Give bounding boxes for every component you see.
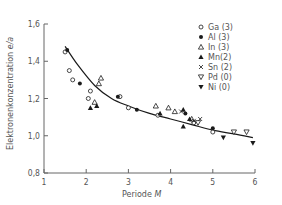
filled-triangle-up-legend-icon [198,54,203,59]
open-circle-marker [88,89,92,93]
open-triangle-up-marker [172,109,177,114]
filled-circle-marker [135,108,139,112]
open-circle-marker [86,97,90,101]
legend-label: Ni (0) [208,83,230,92]
filled-circle-marker [211,126,215,130]
open-triangle-up-marker [98,75,103,80]
legend-label: In (3) [208,43,229,52]
open-triangle-down-legend-icon [198,75,203,80]
filled-circle-marker [116,95,120,99]
filled-circle-marker [65,48,69,52]
open-triangle-up-legend-icon [198,44,203,49]
x-tick-label: 5 [210,177,215,187]
y-axis-title: Elektronenkonzentration e/a [6,37,15,150]
x-tick-label: 3 [126,177,131,187]
open-circle-marker [211,130,215,134]
y-tick-label: 1,4 [28,56,40,66]
filled-circle-marker [183,111,187,115]
x-tick-label: 4 [168,177,173,187]
scatter-chart: 0,81,01,21,41,6123456 Ga (3)Al (3)In (3)… [0,0,282,205]
open-triangle-up-marker [166,105,171,110]
filled-circle-marker [78,82,82,86]
y-tick-label: 1,6 [28,19,40,29]
legend-label: Ga (3) [208,23,233,32]
legend-label: Sn (2) [208,63,232,72]
open-triangle-up-marker [92,100,97,105]
filled-triangle-down-marker [250,141,255,146]
y-tick-label: 1,2 [28,94,40,104]
legend: Ga (3)Al (3)In (3)Mn(2)Sn (2)Pd (0)Ni (0… [198,23,233,92]
legend-label: Al (3) [208,33,230,42]
legend-label: Mn(2) [208,53,231,62]
legend-label: Pd (0) [208,73,232,82]
filled-triangle-up-marker [181,124,186,129]
filled-triangle-down-legend-icon [198,85,203,90]
filled-circle-legend-icon [199,35,203,39]
cross-legend-icon [199,65,203,69]
open-circle-marker [71,78,75,82]
x-tick-label: 2 [84,177,89,187]
open-triangle-down-marker [244,130,249,135]
open-circle-marker [67,69,71,73]
open-triangle-up-marker [153,103,158,108]
open-circle-marker [126,106,130,110]
y-tick-label: 0,8 [28,168,40,178]
y-tick-label: 1,0 [28,131,40,141]
x-axis-title: Periode M [122,190,161,199]
filled-triangle-up-marker [88,105,93,110]
open-triangle-down-marker [195,121,200,126]
x-tick-label: 6 [253,177,258,187]
open-triangle-up-marker [96,81,101,86]
open-circle-legend-icon [199,25,203,29]
x-tick-label: 1 [42,177,47,187]
filled-triangle-down-marker [221,136,226,141]
